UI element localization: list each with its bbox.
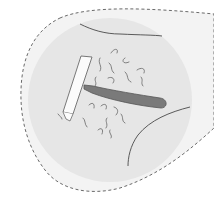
illustration-canvas [0,0,214,207]
inner-skin-circle [28,18,192,182]
shaving-illustration [0,0,214,207]
